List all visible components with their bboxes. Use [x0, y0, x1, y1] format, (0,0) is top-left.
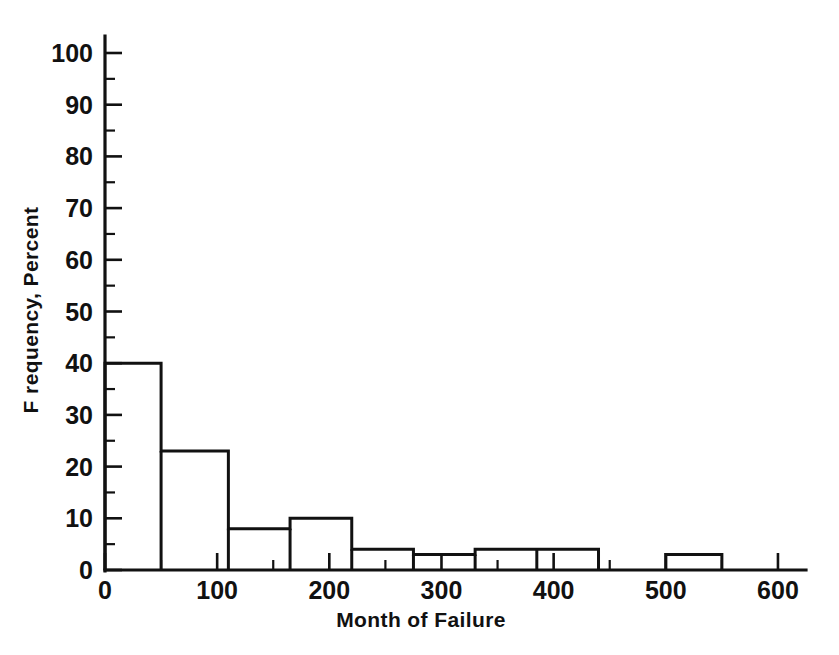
y-axis-title: F requency, Percent — [19, 207, 42, 414]
y-tick-label: 50 — [65, 298, 93, 326]
histogram-bars — [105, 363, 722, 570]
y-tick-label: 90 — [65, 91, 93, 119]
x-tick-label: 600 — [757, 576, 799, 604]
y-axis-tick-labels: 0102030405060708090100 — [51, 39, 93, 584]
y-tick-label: 30 — [65, 401, 93, 429]
y-tick-label: 60 — [65, 246, 93, 274]
y-tick-label: 80 — [65, 142, 93, 170]
y-tick-label: 20 — [65, 453, 93, 481]
y-tick-label: 0 — [79, 556, 93, 584]
x-tick-label: 400 — [533, 576, 575, 604]
x-tick-label: 300 — [421, 576, 463, 604]
x-tick-label: 100 — [196, 576, 238, 604]
y-tick-label: 70 — [65, 194, 93, 222]
chart-canvas: 0102030405060708090100 01002003004005006… — [0, 0, 839, 655]
y-tick-label: 100 — [51, 39, 93, 67]
y-tick-label: 40 — [65, 349, 93, 377]
x-tick-label: 200 — [308, 576, 350, 604]
x-axis-title: Month of Failure — [336, 608, 506, 631]
histogram-bar-run — [105, 363, 599, 570]
x-tick-label: 500 — [645, 576, 687, 604]
histogram-figure: 0102030405060708090100 01002003004005006… — [0, 0, 839, 655]
histogram-bar-run — [666, 554, 722, 570]
x-tick-label: 0 — [98, 576, 112, 604]
x-axis-tick-labels: 0100200300400500600 — [98, 576, 799, 604]
y-tick-label: 10 — [65, 504, 93, 532]
